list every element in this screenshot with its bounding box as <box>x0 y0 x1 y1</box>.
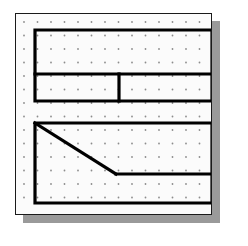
diagonal-segment <box>35 123 116 174</box>
geoboard-panel <box>15 13 212 215</box>
shapes-layer <box>16 14 211 214</box>
figure-root: Geoboard dot-grid figure <box>0 0 248 246</box>
upper-compound-rectangle <box>35 30 211 101</box>
upper-compound-rectangle-outline <box>35 30 211 101</box>
lower-trapezoid-rectangle <box>35 123 211 203</box>
lower-trapezoid-rectangle-outline <box>35 123 211 203</box>
